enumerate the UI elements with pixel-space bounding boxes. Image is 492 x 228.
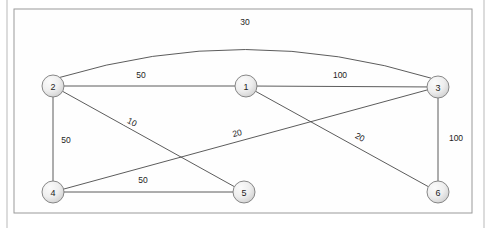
edge-weight-label: 50 xyxy=(138,175,148,185)
edge-weight-4-5: 50 xyxy=(135,174,150,186)
edge-weight-label: 100 xyxy=(333,70,347,80)
node-3[interactable]: 3 xyxy=(427,76,449,98)
node-label: 4 xyxy=(50,188,55,198)
edge-weight-label: 50 xyxy=(136,70,146,80)
node-4[interactable]: 4 xyxy=(42,181,64,203)
node-label: 5 xyxy=(241,188,246,198)
node-2[interactable]: 2 xyxy=(42,75,64,97)
edge-weight-label: 30 xyxy=(240,17,250,27)
node-label: 1 xyxy=(243,82,248,92)
graph-figure: 30501005010202010050 123456 xyxy=(0,0,492,228)
edge-weight-2-4: 50 xyxy=(58,134,73,146)
node-label: 3 xyxy=(435,83,440,93)
node-1[interactable]: 1 xyxy=(235,75,257,97)
edge-weight-label: 50 xyxy=(61,135,71,145)
edge-weight-1-3: 100 xyxy=(330,69,351,81)
edge-weight-2-3: 30 xyxy=(237,16,252,28)
edge-weight-2-1: 50 xyxy=(133,69,148,81)
node-label: 2 xyxy=(50,82,55,92)
node-6[interactable]: 6 xyxy=(427,181,449,203)
edge-weight-3-6: 100 xyxy=(446,132,467,144)
graph-canvas: 30501005010202010050 123456 xyxy=(0,0,492,228)
node-label: 6 xyxy=(435,188,440,198)
edge-weight-label: 100 xyxy=(449,133,463,143)
node-5[interactable]: 5 xyxy=(233,181,255,203)
